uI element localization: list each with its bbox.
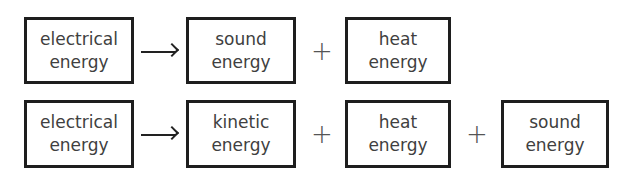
row1-output-heat-energy: heat energy — [345, 17, 451, 84]
box-label-line1: sound — [215, 28, 267, 51]
box-label-line1: heat — [379, 28, 417, 51]
row2-input-electrical-energy: electrical energy — [24, 100, 134, 168]
row2-output-sound-energy: sound energy — [501, 100, 609, 168]
box-label-line2: energy — [525, 134, 584, 157]
row1-plus-icon-1: + — [311, 38, 333, 64]
row1-right-arrow-icon — [141, 51, 176, 53]
box-label-line1: heat — [379, 111, 417, 134]
row1-output-sound-energy: sound energy — [186, 17, 296, 84]
row2-plus-icon-2: + — [466, 121, 488, 147]
box-label-line2: energy — [49, 51, 108, 74]
box-label-line2: energy — [49, 134, 108, 157]
box-label-line2: energy — [368, 134, 427, 157]
box-label-line1: electrical — [40, 111, 118, 134]
box-label-line1: electrical — [40, 28, 118, 51]
row2-output-kinetic-energy: kinetic energy — [186, 100, 296, 168]
box-label-line2: energy — [211, 51, 270, 74]
row2-output-heat-energy: heat energy — [345, 100, 451, 168]
box-label-line2: energy — [368, 51, 427, 74]
box-label-line1: sound — [529, 111, 581, 134]
row1-input-electrical-energy: electrical energy — [24, 17, 134, 84]
row2-right-arrow-icon — [141, 134, 176, 136]
box-label-line1: kinetic — [213, 111, 270, 134]
box-label-line2: energy — [211, 134, 270, 157]
row2-plus-icon-1: + — [311, 121, 333, 147]
